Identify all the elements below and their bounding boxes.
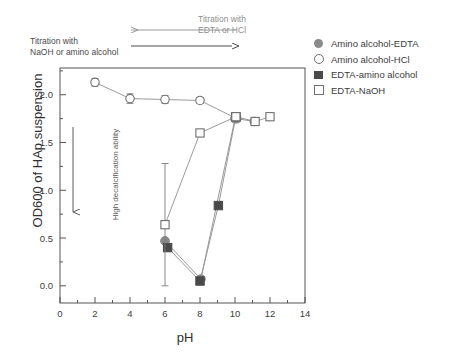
data-point xyxy=(161,95,169,103)
data-point xyxy=(126,94,134,102)
x-tick-label: 8 xyxy=(197,308,202,319)
legend-item-label: Amino alcohol-EDTA xyxy=(331,38,418,49)
chart-series-group xyxy=(91,78,274,286)
legend-marker-circle-open-icon xyxy=(313,54,324,65)
legend-marker-square-filled-icon xyxy=(313,69,324,80)
data-point xyxy=(214,201,222,209)
legend-item-label: EDTA-amino alcohol xyxy=(331,69,417,80)
x-tick-label: 6 xyxy=(162,308,167,319)
legend-item[interactable]: Amino alcohol-HCl xyxy=(313,52,461,68)
legend-item[interactable]: Amino alcohol-EDTA xyxy=(313,36,461,52)
legend-item-label: Amino alcohol-HCl xyxy=(331,54,410,65)
chart-legend: Amino alcohol-EDTA Amino alcohol-HCl EDT… xyxy=(313,36,461,98)
data-point xyxy=(196,129,204,137)
legend-marker-square-open-icon xyxy=(313,85,324,96)
y-tick-label: 2.0 xyxy=(40,89,53,100)
x-tick-label: 4 xyxy=(127,308,132,319)
y-tick-label: 0.5 xyxy=(40,233,53,244)
figure-container: Titration with EDTA or HCl Titration wit… xyxy=(0,0,461,354)
y-tick-label: 1.5 xyxy=(40,137,53,148)
x-tick-label: 14 xyxy=(300,308,311,319)
y-tick-label: 1.0 xyxy=(40,185,53,196)
data-point xyxy=(196,96,204,104)
data-point xyxy=(232,113,240,121)
data-point xyxy=(91,78,99,86)
chart-axes: 024681012140.00.51.01.52.0 xyxy=(40,68,311,319)
data-point xyxy=(161,221,169,229)
data-point xyxy=(266,113,274,121)
x-tick-label: 10 xyxy=(230,308,241,319)
x-tick-label: 2 xyxy=(92,308,97,319)
annotation-arrows xyxy=(73,30,236,212)
data-point xyxy=(251,117,259,125)
x-tick-label: 12 xyxy=(265,308,276,319)
y-tick-label: 0.0 xyxy=(40,280,53,291)
legend-item[interactable]: EDTA-NaOH xyxy=(313,83,461,99)
legend-item[interactable]: EDTA-amino alcohol xyxy=(313,67,461,83)
x-tick-label: 0 xyxy=(57,308,62,319)
legend-item-label: EDTA-NaOH xyxy=(331,85,385,96)
series-amino-alcohol-edta xyxy=(161,114,240,283)
data-point xyxy=(196,277,204,285)
legend-marker-circle-filled-icon xyxy=(313,38,324,49)
